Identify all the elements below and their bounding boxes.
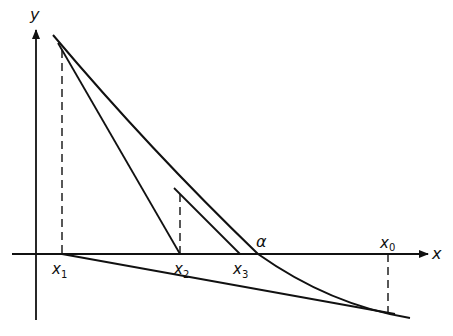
label-x3: x3 [232,260,248,280]
newton-method-diagram: y x x1 x2 x3 x0 α [0,0,453,336]
label-x0: x0 [379,234,395,253]
label-x1: x1 [51,260,67,280]
y-axis-label: y [29,5,40,24]
label-x2: x2 [173,260,189,280]
function-curve [53,35,410,318]
x-axis-label: x [431,244,442,263]
label-alpha: α [256,232,267,251]
tangent-at-x1 [58,43,180,254]
diagram-canvas: y x x1 x2 x3 x0 α [0,0,453,336]
tangent-at-x2 [174,188,240,254]
tangent-at-x0 [62,254,395,314]
